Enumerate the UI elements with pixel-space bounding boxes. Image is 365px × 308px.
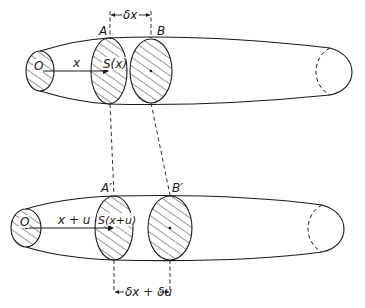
label-x: x xyxy=(72,56,81,70)
deformed-bar: O x + u S(x+u) A′ B′ δx + δu xyxy=(11,181,344,299)
label-B-prime: B′ xyxy=(172,181,183,195)
label-delta-x: δx xyxy=(123,8,138,22)
label-O: O xyxy=(34,59,43,73)
bar-outline-bottom xyxy=(40,91,330,105)
label-O-prime: O xyxy=(20,215,29,229)
bar-outline-top xyxy=(40,37,330,51)
label-A: A xyxy=(98,24,107,38)
bar-end-visible xyxy=(330,48,352,95)
projection-lines xyxy=(110,103,170,195)
label-A-prime: A′ xyxy=(100,181,112,195)
label-Sx: S(x) xyxy=(103,57,127,71)
bar-end-hidden xyxy=(316,48,330,95)
label-delta-x-plus-delta-u: δx + δu xyxy=(125,285,172,299)
bar-deformation-diagram: O x S(x) A B δx O x + u S(x+u) xyxy=(0,0,365,308)
label-x-plus-u: x + u xyxy=(57,213,91,227)
label-Sxu: S(x+u) xyxy=(98,214,136,227)
label-B: B xyxy=(157,24,165,38)
undeformed-bar: O x S(x) A B δx xyxy=(26,8,352,105)
